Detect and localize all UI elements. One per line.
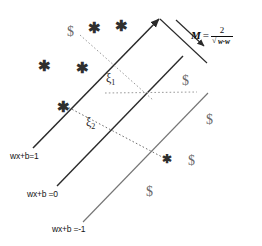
slack-label-xi1: ξ1 bbox=[106, 72, 115, 87]
star-marker: ✱ bbox=[76, 61, 89, 76]
dollar-marker: $ bbox=[206, 113, 213, 127]
equals-sign: = bbox=[203, 30, 209, 41]
sqrt-icon: w∙w bbox=[213, 38, 231, 46]
star-marker: ✱ bbox=[38, 59, 51, 74]
slack-dotted-line-xi1 bbox=[80, 35, 153, 100]
dollar-marker-misclassified: $ bbox=[67, 25, 74, 39]
margin-symbol: M bbox=[191, 30, 201, 41]
slack-dotted-line-xi2 bbox=[62, 104, 164, 158]
hyperplane-upper-line bbox=[33, 19, 159, 148]
slack-label-xi2: ξ2 bbox=[86, 116, 95, 131]
hyperplane-label-decision: wx+b =0 bbox=[27, 190, 58, 199]
dollar-marker-support-vector: $ bbox=[182, 74, 189, 88]
dollar-marker: $ bbox=[188, 154, 195, 168]
star-marker: ✱ bbox=[88, 21, 101, 36]
hyperplane-label-upper: wx+b=1 bbox=[10, 152, 39, 161]
xi-subscript: 1 bbox=[111, 78, 115, 87]
star-marker-misclassified: ✱ bbox=[162, 153, 172, 165]
svm-margin-diagram: ✱ ✱ ✱ ✱ ✱ ✱ $ $ $ $ $ ξ1 ξ2 wx+b=1 wx+b … bbox=[0, 0, 262, 246]
radicand: w∙w bbox=[217, 36, 231, 46]
star-marker: ✱ bbox=[115, 19, 128, 34]
dollar-marker: $ bbox=[146, 185, 153, 199]
hyperplane-label-lower: wx+b =-1 bbox=[52, 225, 85, 234]
margin-band-dotted-connector bbox=[105, 92, 197, 93]
margin-numerator: 2 bbox=[217, 26, 228, 36]
margin-fraction: 2 w∙w bbox=[211, 26, 233, 46]
margin-formula: M = 2 w∙w bbox=[191, 26, 233, 46]
star-marker-support-vector: ✱ bbox=[57, 100, 70, 115]
xi-subscript: 2 bbox=[91, 122, 95, 131]
margin-denominator: w∙w bbox=[211, 37, 233, 46]
